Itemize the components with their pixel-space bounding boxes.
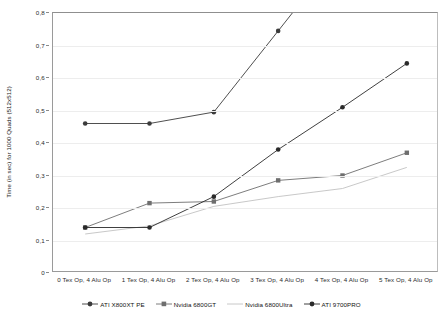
plot-area <box>52 12 438 272</box>
y-axis-labels: 00,10,20,30,40,50,60,70,8 <box>0 0 52 284</box>
legend-item[interactable]: ATI X800XT PE <box>82 300 144 308</box>
data-point-marker <box>276 29 281 34</box>
series-line <box>85 167 407 234</box>
y-axis-tick-mark <box>46 175 49 176</box>
data-point-marker <box>147 201 151 205</box>
data-point-marker <box>405 61 410 66</box>
legend-item[interactable]: Nvidia 6800GT <box>156 300 217 308</box>
data-point-marker <box>212 194 217 199</box>
y-axis-tick-mark <box>46 12 49 13</box>
y-axis-tick-label: 0,1 <box>36 236 45 243</box>
x-axis-tick-label: 0 Tex Op, 4 Alu Op <box>57 276 111 283</box>
legend-label: ATI 9700PRO <box>322 301 361 308</box>
y-axis-tick-mark <box>46 272 49 273</box>
square-marker-icon <box>156 300 172 308</box>
y-axis-tick-mark <box>46 142 49 143</box>
x-axis-tick-label: 1 Tex Op, 4 Alu Op <box>122 276 176 283</box>
series-line <box>85 153 407 228</box>
y-axis-tick-label: 0 <box>41 269 45 276</box>
line-marker-icon <box>227 300 243 308</box>
gridline <box>53 143 437 144</box>
diamond-marker-icon <box>304 300 320 308</box>
diamond-marker-icon <box>82 300 98 308</box>
y-axis-tick-label: 0,2 <box>36 204 45 211</box>
series-line <box>85 63 407 227</box>
y-axis-tick-label: 0,3 <box>36 171 45 178</box>
gridline <box>53 208 437 209</box>
data-point-marker <box>83 225 88 230</box>
series-line <box>85 13 303 124</box>
y-axis-tick-label: 0,4 <box>36 139 45 146</box>
y-axis-tick-mark <box>46 77 49 78</box>
gridline <box>53 46 437 47</box>
gridline <box>53 111 437 112</box>
data-point-marker <box>147 121 152 126</box>
legend-label: Nvidia 6800GT <box>174 301 217 308</box>
legend-label: ATI X800XT PE <box>100 301 144 308</box>
gridline <box>53 78 437 79</box>
data-point-marker <box>212 199 216 203</box>
data-point-marker <box>276 147 281 152</box>
y-axis-tick-label: 0,7 <box>36 41 45 48</box>
y-axis-tick-mark <box>46 110 49 111</box>
x-axis-tick-label: 4 Tex Op, 4 Alu Op <box>315 276 369 283</box>
x-axis-tick-label: 2 Tex Op, 4 Alu Op <box>186 276 240 283</box>
y-axis-tick-mark <box>46 207 49 208</box>
y-axis-tick-label: 0,6 <box>36 74 45 81</box>
legend-label: Nvidia 6800Ultra <box>245 301 292 308</box>
x-axis-tick-label: 3 Tex Op, 4 Alu Op <box>250 276 304 283</box>
y-axis-tick-mark <box>46 240 49 241</box>
legend-item[interactable]: ATI 9700PRO <box>304 300 361 308</box>
y-axis-tick-label: 0,5 <box>36 106 45 113</box>
gridline <box>53 176 437 177</box>
gridline <box>53 241 437 242</box>
x-axis-tick-label: 5 Tex Op, 4 Alu Op <box>379 276 433 283</box>
data-point-marker <box>83 121 88 126</box>
legend-item[interactable]: Nvidia 6800Ultra <box>227 300 292 308</box>
data-point-marker <box>276 178 280 182</box>
x-axis-labels: 0 Tex Op, 4 Alu Op1 Tex Op, 4 Alu Op2 Te… <box>52 276 438 290</box>
chart-legend: ATI X800XT PENvidia 6800GTNvidia 6800Ult… <box>0 297 443 311</box>
chart-container: Time (in sec) for 1000 Quads (512x512) 0… <box>0 0 443 316</box>
data-point-marker <box>147 225 152 230</box>
data-point-marker <box>405 151 409 155</box>
y-axis-tick-label: 0,8 <box>36 9 45 16</box>
data-point-marker <box>340 105 345 110</box>
y-axis-tick-mark <box>46 45 49 46</box>
